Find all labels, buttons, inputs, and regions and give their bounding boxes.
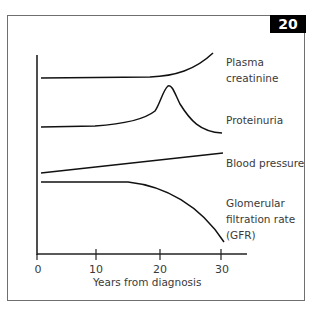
x-axis-title: Years from diagnosis bbox=[93, 276, 201, 288]
label-line: Blood pressure bbox=[226, 155, 304, 171]
x-tick-label-30: 30 bbox=[215, 263, 229, 276]
curve-blood-pressure bbox=[41, 153, 223, 173]
label-line: Plasma bbox=[226, 54, 278, 70]
x-tick-label-0: 0 bbox=[35, 263, 42, 276]
label-line: creatinine bbox=[226, 70, 278, 86]
label-plasma-creatinine: Plasma creatinine bbox=[226, 54, 278, 86]
label-line: (GFR) bbox=[226, 227, 295, 243]
curve-gfr bbox=[41, 182, 224, 242]
curve-plasma-creatinine bbox=[41, 53, 213, 78]
x-tick-label-20: 20 bbox=[153, 263, 167, 276]
label-blood-pressure: Blood pressure bbox=[226, 155, 304, 171]
label-gfr: Glomerular filtration rate (GFR) bbox=[226, 195, 295, 243]
label-line: Glomerular bbox=[226, 195, 295, 211]
label-line: Proteinuria bbox=[226, 112, 283, 128]
label-line: filtration rate bbox=[226, 211, 295, 227]
x-tick-label-10: 10 bbox=[89, 263, 103, 276]
label-proteinuria: Proteinuria bbox=[226, 112, 283, 128]
curve-proteinuria bbox=[41, 86, 222, 133]
